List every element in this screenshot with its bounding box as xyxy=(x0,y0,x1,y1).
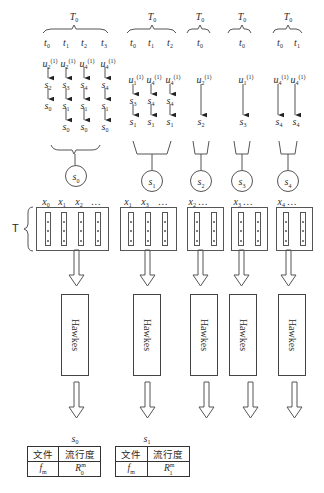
window-label-g3: T0 xyxy=(238,12,247,25)
brace-T0-group3 xyxy=(228,25,251,33)
popularity-table-s1: 文件流行度 fm Rm1 xyxy=(115,446,190,477)
time-label: t1 xyxy=(148,38,154,51)
state-label: s4 xyxy=(81,80,88,93)
window-label-g4: T0 xyxy=(284,12,293,25)
state-label: s4 xyxy=(167,96,174,109)
state-label: s1 xyxy=(81,101,88,114)
state-node-s4: s4 xyxy=(277,170,299,192)
seq-label: … xyxy=(92,197,101,207)
seq-label: … xyxy=(159,197,168,207)
state-label: s2 xyxy=(198,117,205,130)
header-file: 文件 xyxy=(116,447,148,462)
user-input: u2(1) xyxy=(61,56,76,72)
user-input: u1(1) xyxy=(239,72,254,88)
hawkes-model-s4: Hawkes xyxy=(278,294,306,376)
header-file: 文件 xyxy=(28,447,59,462)
user-input: u4(1) xyxy=(274,72,289,88)
brace-T0-group2 xyxy=(187,25,210,33)
time-label: t0 xyxy=(130,38,136,51)
user-input: u4(1) xyxy=(101,56,116,72)
state-label: s1 xyxy=(148,117,155,130)
funnel-s4 xyxy=(279,141,297,170)
state-label: s0 xyxy=(81,122,88,135)
window-label-g0: T0 xyxy=(70,12,79,25)
user-input: u2(1) xyxy=(43,56,58,72)
popularity-table-s0: 文件流行度 fm Rm0 xyxy=(27,446,101,477)
time-label: t0 xyxy=(277,38,283,51)
state-label: s2 xyxy=(45,80,52,93)
state-label: s4 xyxy=(148,96,155,109)
user-input: u2(1) xyxy=(197,72,212,88)
time-label: t0 xyxy=(239,38,245,51)
user-input: u1(1) xyxy=(129,72,144,88)
funnel-s1 xyxy=(133,141,171,170)
cell-file: fm xyxy=(28,462,59,477)
hawkes-model-s2: Hawkes xyxy=(190,294,218,376)
sequence-stack-s4 xyxy=(276,207,313,251)
brace-T0-group0 xyxy=(43,25,108,33)
user-input: u4(1) xyxy=(166,72,181,88)
state-node-s3: s3 xyxy=(231,170,253,192)
time-label: t2 xyxy=(167,38,173,51)
hawkes-model-s0: Hawkes xyxy=(61,294,89,376)
state-label: s0 xyxy=(45,101,52,114)
state-label: s4 xyxy=(276,117,283,130)
window-label-g2: T0 xyxy=(196,12,205,25)
time-label: t2 xyxy=(81,38,87,51)
sequence-stack-s2 xyxy=(187,207,224,251)
cell-popularity: Rm1 xyxy=(147,462,189,477)
header-popularity: 流行度 xyxy=(147,447,189,462)
time-label: t0 xyxy=(44,38,50,51)
funnel-s2 xyxy=(193,141,209,170)
brace-merge-s0 xyxy=(51,145,100,154)
time-label: t1 xyxy=(63,38,69,51)
state-label: s1 xyxy=(63,101,70,114)
hawkes-model-s1: Hawkes xyxy=(133,294,161,376)
block-arrows-1 xyxy=(69,250,296,286)
user-input: u4(1) xyxy=(291,72,306,88)
state-label: s1 xyxy=(130,117,137,130)
header-popularity: 流行度 xyxy=(59,447,101,462)
brace-T xyxy=(24,207,33,251)
state-label: s4 xyxy=(293,117,300,130)
state-label: s0 xyxy=(102,122,109,135)
state-label: s1 xyxy=(102,101,109,114)
window-label-g1: T0 xyxy=(148,12,157,25)
state-label: s3 xyxy=(130,96,137,109)
state-label: s0 xyxy=(63,122,70,135)
state-node-s1: s1 xyxy=(141,170,163,192)
state-node-s2: s2 xyxy=(190,170,212,192)
sequence-stack-s3 xyxy=(231,207,268,251)
state-label: s3 xyxy=(63,80,70,93)
funnel-s3 xyxy=(234,141,250,170)
user-input: u4(1) xyxy=(147,72,162,88)
brace-T0-group1 xyxy=(127,25,176,33)
time-label: t0 xyxy=(197,38,203,51)
sequence-stack-s1 xyxy=(120,207,177,251)
brace-T0-group4 xyxy=(273,25,302,33)
state-label: s1 xyxy=(167,117,174,130)
time-label: t3 xyxy=(101,38,107,51)
state-label: s4 xyxy=(102,80,109,93)
cell-popularity: Rm0 xyxy=(59,462,101,477)
side-label-T: T xyxy=(12,222,19,234)
sequence-stack-s0 xyxy=(36,207,109,251)
cell-file: fm xyxy=(116,462,148,477)
block-arrows-2 xyxy=(69,382,302,418)
state-node-s0: s0 xyxy=(65,165,87,187)
state-label: s3 xyxy=(240,117,247,130)
time-label: t1 xyxy=(294,38,300,51)
user-input: u4(1) xyxy=(80,56,95,72)
hawkes-model-s3: Hawkes xyxy=(229,294,257,376)
